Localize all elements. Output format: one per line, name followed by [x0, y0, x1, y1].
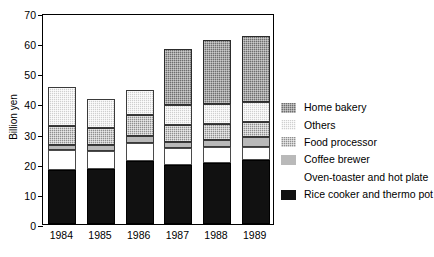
y-axis-tick — [38, 45, 43, 46]
y-axis-tick-label: 70 — [24, 10, 36, 21]
legend-swatch-icon — [281, 172, 296, 182]
legend-item[interactable]: Coffee brewer — [281, 151, 433, 168]
bar-segment[interactable] — [242, 122, 270, 137]
legend-item-label: Others — [304, 120, 336, 131]
legend-swatch-icon — [281, 103, 296, 113]
y-axis-tick-label: 50 — [24, 70, 36, 81]
legend-item[interactable]: Rice cooker and thermo pot — [281, 186, 433, 203]
legend-item[interactable]: Others — [281, 116, 433, 133]
y-axis-tick — [38, 105, 43, 106]
y-axis-tick — [38, 136, 43, 137]
y-axis-tick-label: 20 — [24, 160, 36, 171]
bar-segment[interactable] — [242, 36, 270, 101]
bar-segment[interactable] — [164, 125, 192, 142]
bar-segment[interactable] — [203, 163, 231, 224]
y-axis-tick — [38, 166, 43, 167]
bar-segment[interactable] — [203, 147, 231, 162]
bar-segment[interactable] — [164, 49, 192, 105]
legend-swatch-icon — [281, 137, 296, 147]
bar-segment[interactable] — [164, 165, 192, 224]
bar-segment[interactable] — [203, 124, 231, 140]
legend-item-label: Oven-toaster and hot plate — [304, 172, 428, 183]
bar-segment[interactable] — [87, 169, 115, 224]
y-axis-tick — [38, 75, 43, 76]
bar-segment[interactable] — [242, 137, 270, 147]
bar-segment[interactable] — [242, 102, 270, 122]
bar-segment[interactable] — [203, 140, 231, 148]
bar-segment[interactable] — [242, 147, 270, 159]
bar-segment[interactable] — [87, 128, 115, 145]
bar-segment[interactable] — [87, 145, 115, 151]
bar-segment[interactable] — [126, 90, 154, 115]
y-axis-tick-label: 60 — [24, 40, 36, 51]
stacked-bar-chart: Billion yen 010203040506070 198419851986… — [0, 0, 434, 257]
legend-swatch-icon — [281, 120, 296, 130]
y-axis-tick-label: 10 — [24, 191, 36, 202]
legend-item-label: Rice cooker and thermo pot — [304, 189, 433, 200]
bar-segment[interactable] — [48, 145, 76, 150]
legend-item[interactable]: Oven-toaster and hot plate — [281, 169, 433, 186]
y-axis-title: Billion yen — [9, 72, 19, 162]
bar-segment[interactable] — [87, 99, 115, 128]
bar-segment[interactable] — [48, 126, 76, 145]
bar-segment[interactable] — [126, 136, 154, 142]
legend-item[interactable]: Home bakery — [281, 99, 433, 116]
bar-segment[interactable] — [48, 150, 76, 170]
legend-item[interactable]: Food processor — [281, 134, 433, 151]
x-axis-label-1989: 1989 — [225, 230, 285, 241]
bar-segment[interactable] — [48, 170, 76, 224]
bar-segment[interactable] — [126, 143, 154, 161]
y-axis-tick — [38, 15, 43, 16]
bar-segment[interactable] — [48, 87, 76, 125]
plot-area: 010203040506070 — [42, 14, 274, 225]
bar-segment[interactable] — [203, 40, 231, 104]
legend-swatch-icon — [281, 190, 296, 200]
y-axis-tick-label: 40 — [24, 100, 36, 111]
y-axis-tick — [38, 226, 43, 227]
chart-legend: Home bakeryOthersFood processorCoffee br… — [281, 99, 433, 203]
bar-segment[interactable] — [242, 160, 270, 225]
bar-segment[interactable] — [203, 104, 231, 124]
bar-segment[interactable] — [164, 142, 192, 148]
bar-segment[interactable] — [164, 105, 192, 125]
bar-segment[interactable] — [164, 148, 192, 165]
bar-segment[interactable] — [87, 151, 115, 169]
bar-segment[interactable] — [126, 161, 154, 224]
legend-item-label: Coffee brewer — [304, 154, 370, 165]
y-axis-tick-label: 30 — [24, 130, 36, 141]
legend-swatch-icon — [281, 155, 296, 165]
y-axis-tick — [38, 196, 43, 197]
bar-segment[interactable] — [126, 115, 154, 136]
legend-item-label: Home bakery — [304, 102, 366, 113]
legend-item-label: Food processor — [304, 137, 377, 148]
